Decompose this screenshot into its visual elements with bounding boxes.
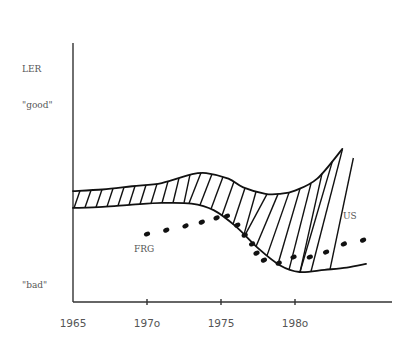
y-axis-title: LER (22, 64, 42, 74)
frg-data-point (306, 254, 314, 261)
hatch-line (244, 192, 256, 235)
hatch-line (211, 177, 223, 209)
frg-data-point (248, 241, 256, 248)
x-tick-label: 198o (282, 317, 308, 329)
hatch-line (140, 185, 146, 204)
hatch-line (85, 190, 91, 207)
frg-data-point (143, 231, 151, 238)
hatch-line (184, 175, 190, 203)
frg-data-point (198, 219, 206, 226)
us-band-curves (73, 149, 366, 272)
hatch-line (96, 190, 102, 208)
frg-data-point (359, 237, 367, 244)
x-tick-label: 1965 (60, 317, 87, 329)
frg-data-point (322, 249, 330, 256)
frg-data-point (340, 241, 348, 248)
frg-data-point (213, 215, 221, 222)
frg-data-point (290, 254, 298, 261)
frg-data-point (260, 257, 268, 264)
frg-label: FRG (134, 244, 154, 254)
x-tick-label: 197o (134, 317, 160, 329)
hatch-line (118, 187, 124, 206)
hatch-line (200, 174, 212, 205)
hatch-line (129, 186, 135, 205)
hatch-line (74, 191, 80, 208)
y-label-bad: "bad" (22, 280, 47, 290)
hatch-line (256, 194, 278, 246)
y-label-good: "good" (22, 100, 53, 110)
frg-series (143, 213, 367, 267)
hatch-line (189, 173, 201, 204)
us-label: US (343, 211, 357, 221)
hatch-line (151, 184, 157, 204)
hatch-line (233, 188, 245, 224)
frg-data-point (182, 223, 190, 230)
x-ticks: 1965197o1975198o (60, 299, 309, 329)
frg-data-point (223, 213, 231, 220)
hatch-line (173, 178, 179, 203)
us-band-lower-line (73, 203, 366, 272)
hatch-line (267, 193, 289, 256)
hatch-line (107, 189, 113, 207)
ler-chart: LER "good" "bad" 1965197o1975198o US FRG (0, 0, 411, 350)
frg-data-point (253, 250, 261, 257)
us-diverging-line (300, 161, 332, 272)
us-band-upper-line (73, 149, 342, 195)
frg-data-point (162, 227, 170, 234)
hatch-line (222, 181, 234, 215)
frg-data-point (233, 222, 241, 229)
x-tick-label: 1975 (208, 317, 235, 329)
hatch-line (162, 181, 168, 203)
hatch-line (278, 189, 300, 264)
